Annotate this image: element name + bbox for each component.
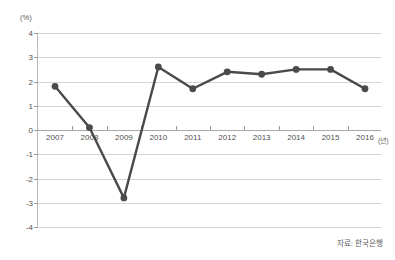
- data-point-2007: [52, 83, 59, 90]
- data-point-2012: [224, 68, 231, 75]
- data-point-2008: [86, 124, 93, 131]
- data-point-2009: [120, 195, 127, 202]
- y-tick-mark: [34, 227, 38, 228]
- y-tick-label: -1: [26, 150, 33, 159]
- data-point-2016: [362, 85, 369, 92]
- y-tick-label: 2: [29, 77, 33, 86]
- data-point-2014: [293, 66, 300, 73]
- y-tick-label: -4: [26, 223, 33, 232]
- data-point-2010: [155, 64, 162, 71]
- data-point-2013: [258, 71, 265, 78]
- source-note: 자료: 한국은행: [337, 237, 383, 248]
- series-polyline: [55, 67, 365, 198]
- chart-figure: (%) 43210-1-2-3-4 2007200820092010201120…: [0, 0, 395, 260]
- y-tick-label: 1: [29, 101, 33, 110]
- data-point-2011: [189, 85, 196, 92]
- y-tick-label: 0: [29, 126, 33, 135]
- gridline-neg4: [37, 227, 381, 228]
- data-series-line: [37, 33, 381, 227]
- y-axis-unit-label: (%): [20, 13, 32, 22]
- y-tick-label: -3: [26, 198, 33, 207]
- y-tick-label: 4: [29, 29, 33, 38]
- y-tick-label: 3: [29, 53, 33, 62]
- plot-area: 43210-1-2-3-4 20072008200920102011201220…: [37, 33, 381, 227]
- data-point-2015: [327, 66, 334, 73]
- y-tick-label: -2: [26, 174, 33, 183]
